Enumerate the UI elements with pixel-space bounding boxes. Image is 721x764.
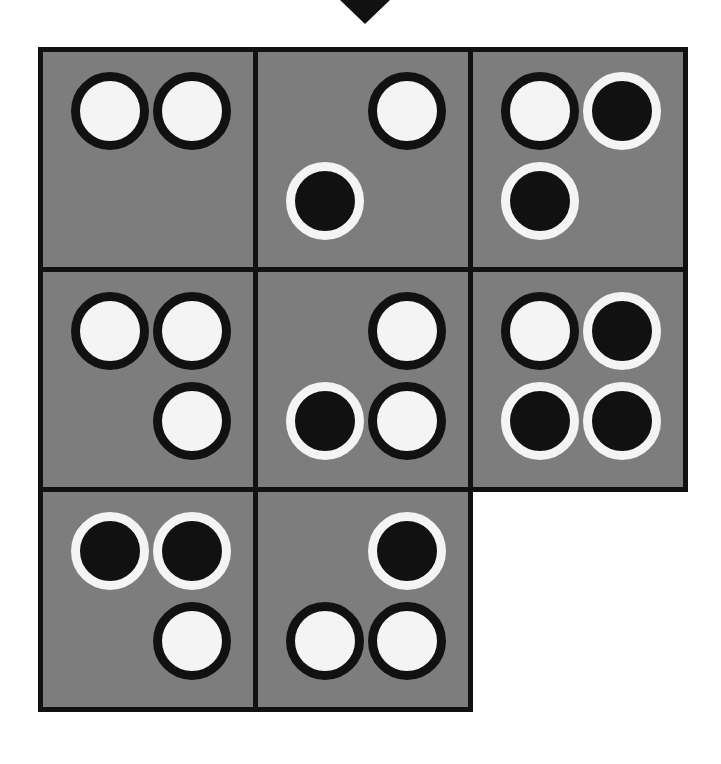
grid-cell-r0c2[interactable]	[468, 47, 688, 272]
token-white-bottom-right[interactable]	[153, 602, 231, 680]
token-white-top-left[interactable]	[71, 72, 149, 150]
token-white-bottom-right[interactable]	[153, 382, 231, 460]
puzzle-grid	[38, 47, 683, 707]
grid-cell-r1c0[interactable]	[38, 267, 258, 492]
grid-cell-r2c0[interactable]	[38, 487, 258, 712]
token-white-top-right[interactable]	[368, 72, 446, 150]
grid-row	[38, 47, 683, 267]
token-black-top-right[interactable]	[583, 292, 661, 370]
grid-cell-r0c0[interactable]	[38, 47, 258, 272]
token-black-top-right[interactable]	[153, 512, 231, 590]
grid-row	[38, 487, 683, 707]
token-black-bottom-left[interactable]	[501, 162, 579, 240]
token-white-bottom-right[interactable]	[368, 602, 446, 680]
token-white-bottom-right[interactable]	[368, 382, 446, 460]
token-black-bottom-left[interactable]	[501, 382, 579, 460]
token-black-bottom-right[interactable]	[583, 382, 661, 460]
grid-cell-r1c1[interactable]	[253, 267, 473, 492]
token-white-top-left[interactable]	[501, 72, 579, 150]
token-white-top-right[interactable]	[368, 292, 446, 370]
token-white-top-left[interactable]	[71, 292, 149, 370]
token-white-top-right[interactable]	[153, 292, 231, 370]
grid-cell-r0c1[interactable]	[253, 47, 473, 272]
token-black-top-left[interactable]	[71, 512, 149, 590]
grid-cell-r2c1[interactable]	[253, 487, 473, 712]
token-black-top-right[interactable]	[583, 72, 661, 150]
down-triangle-icon	[340, 0, 390, 24]
marker-layer	[0, 0, 721, 46]
token-white-top-left[interactable]	[501, 292, 579, 370]
token-black-top-right[interactable]	[368, 512, 446, 590]
token-white-bottom-left[interactable]	[286, 602, 364, 680]
grid-row	[38, 267, 683, 487]
grid-cell-r2c2	[468, 487, 688, 712]
token-black-bottom-left[interactable]	[286, 162, 364, 240]
token-black-bottom-left[interactable]	[286, 382, 364, 460]
grid-cell-r1c2[interactable]	[468, 267, 688, 492]
token-white-top-right[interactable]	[153, 72, 231, 150]
